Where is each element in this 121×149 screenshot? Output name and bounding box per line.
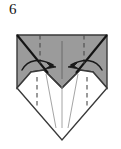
origami-diagram — [0, 0, 121, 149]
origami-step-figure: 6 — [0, 0, 121, 149]
